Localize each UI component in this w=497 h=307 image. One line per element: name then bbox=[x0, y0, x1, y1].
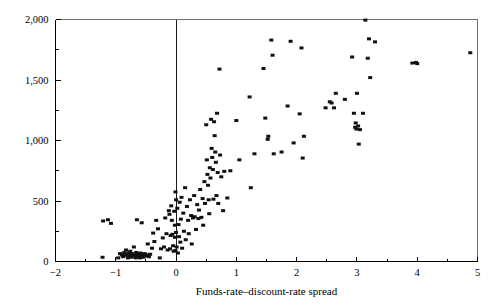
data-point bbox=[208, 177, 212, 180]
data-point bbox=[201, 224, 205, 227]
data-point bbox=[179, 218, 183, 221]
data-points bbox=[101, 19, 473, 260]
data-point bbox=[178, 241, 182, 244]
data-point bbox=[197, 209, 201, 212]
data-point bbox=[266, 135, 270, 138]
x-tick-label: 3 bbox=[354, 267, 359, 278]
x-tick-label: 1 bbox=[234, 267, 239, 278]
data-point bbox=[213, 134, 217, 137]
data-point bbox=[218, 154, 222, 157]
data-point bbox=[215, 112, 219, 115]
data-point bbox=[334, 92, 338, 95]
data-point bbox=[182, 230, 186, 233]
data-point bbox=[221, 209, 225, 212]
data-point bbox=[214, 161, 218, 164]
data-point bbox=[150, 247, 154, 250]
data-point bbox=[132, 245, 136, 248]
x-tick-label: 0 bbox=[173, 267, 178, 278]
data-point bbox=[106, 218, 110, 221]
data-point bbox=[109, 222, 113, 225]
data-point bbox=[410, 62, 414, 65]
y-tick-label: 2,000 bbox=[25, 14, 49, 25]
data-point bbox=[292, 141, 296, 144]
data-point bbox=[343, 98, 347, 101]
x-tick-label: 5 bbox=[475, 267, 480, 278]
data-point bbox=[272, 152, 276, 155]
data-point bbox=[135, 218, 139, 221]
data-point bbox=[180, 196, 184, 199]
data-point bbox=[146, 242, 150, 245]
data-point bbox=[228, 169, 232, 172]
x-tick-label: 4 bbox=[415, 267, 421, 278]
data-point bbox=[225, 196, 229, 199]
data-point bbox=[199, 216, 203, 219]
data-point bbox=[357, 143, 361, 146]
chart-canvas: −2−1012345 05001,0001,5002,000 Funds-rat… bbox=[0, 0, 497, 307]
data-point bbox=[286, 105, 290, 108]
y-tick-label: 0 bbox=[43, 256, 48, 267]
data-point bbox=[158, 256, 162, 259]
data-point bbox=[151, 232, 155, 235]
data-point bbox=[363, 19, 367, 22]
data-point bbox=[176, 223, 180, 226]
data-point bbox=[178, 201, 182, 204]
data-point bbox=[181, 212, 185, 215]
data-point bbox=[358, 128, 362, 131]
data-point bbox=[366, 57, 370, 60]
data-point bbox=[174, 198, 178, 201]
y-tick-labels: 05001,0001,5002,000 bbox=[25, 14, 49, 267]
x-tick-labels: −2−1012345 bbox=[50, 267, 480, 278]
data-point bbox=[180, 247, 184, 250]
data-point bbox=[280, 151, 284, 154]
data-point bbox=[140, 221, 144, 224]
data-point bbox=[217, 68, 221, 71]
data-point bbox=[271, 54, 275, 57]
data-point bbox=[222, 170, 226, 173]
x-axis-title: Funds-rate–discount-rate spread bbox=[196, 285, 338, 297]
data-point bbox=[206, 184, 210, 187]
data-point bbox=[352, 112, 356, 115]
data-point bbox=[170, 219, 174, 222]
data-point bbox=[302, 135, 306, 138]
data-point bbox=[298, 112, 302, 115]
data-point bbox=[234, 119, 238, 122]
data-point bbox=[324, 106, 328, 109]
data-point bbox=[205, 173, 209, 176]
data-point bbox=[164, 232, 168, 235]
data-point bbox=[148, 253, 152, 256]
data-point bbox=[207, 198, 211, 201]
data-point bbox=[350, 56, 354, 59]
data-point bbox=[198, 188, 202, 191]
data-point bbox=[330, 101, 334, 104]
data-point bbox=[175, 245, 179, 248]
data-point bbox=[210, 156, 214, 159]
data-point bbox=[170, 233, 174, 236]
data-point bbox=[212, 120, 216, 123]
data-point bbox=[356, 124, 360, 127]
data-point bbox=[354, 121, 358, 124]
data-point bbox=[202, 180, 206, 183]
data-point bbox=[124, 249, 128, 252]
data-point bbox=[211, 168, 215, 171]
data-point bbox=[186, 219, 190, 222]
data-point bbox=[184, 238, 188, 241]
data-point bbox=[261, 67, 265, 70]
scatter-plot-figure: −2−1012345 05001,0001,5002,000 Funds-rat… bbox=[0, 0, 497, 307]
data-point bbox=[214, 194, 218, 197]
data-point bbox=[210, 147, 214, 150]
data-point bbox=[173, 224, 177, 227]
data-point bbox=[219, 175, 223, 178]
data-point bbox=[249, 186, 253, 189]
data-point bbox=[152, 240, 156, 243]
x-tick-label: −1 bbox=[110, 267, 121, 278]
x-tick-label: 2 bbox=[294, 267, 299, 278]
data-point bbox=[211, 198, 215, 201]
data-point bbox=[175, 207, 179, 210]
data-point bbox=[101, 219, 105, 222]
data-point bbox=[185, 205, 189, 208]
data-point bbox=[248, 95, 252, 98]
y-tick-label: 1,500 bbox=[25, 75, 49, 86]
data-point bbox=[332, 106, 336, 109]
data-point bbox=[203, 202, 207, 205]
data-point bbox=[162, 245, 166, 248]
